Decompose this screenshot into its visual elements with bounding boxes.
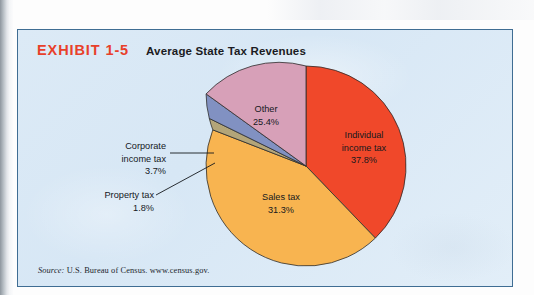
pie-chart: Other 25.4% Individual income tax 37.8% …: [18, 30, 514, 288]
scan-artifact: [0, 0, 534, 20]
exhibit-card: EXHIBIT 1-5 Average State Tax Revenues: [17, 29, 513, 287]
page-edge: [9, 0, 13, 295]
pie-chart-svg: [18, 30, 514, 288]
source-text: U.S. Bureau of Census. www.census.gov.: [67, 266, 210, 275]
book-page: EXHIBIT 1-5 Average State Tax Revenues: [0, 0, 534, 295]
callout-line-property: [156, 163, 215, 195]
source-label: Source:: [38, 266, 64, 275]
source-note: Source: U.S. Bureau of Census. www.censu…: [38, 266, 209, 275]
